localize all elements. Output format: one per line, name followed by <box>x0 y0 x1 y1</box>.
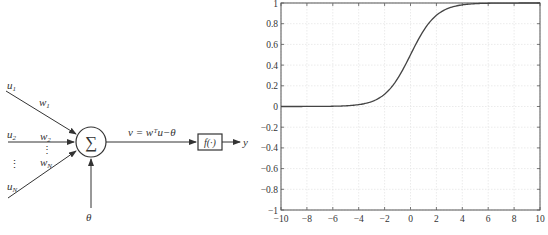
x-tick-label: 0 <box>408 214 413 224</box>
y-tick-label: 0 <box>273 102 278 112</box>
weight-label-n: wN <box>40 156 52 170</box>
y-tick-label: −0.2 <box>261 123 278 133</box>
x-tick-label: −8 <box>302 214 312 224</box>
output-label: y <box>242 136 248 148</box>
weight-label-2: w2 <box>40 130 51 144</box>
x-tick-label: −6 <box>328 214 338 224</box>
x-tick-label: 4 <box>460 214 465 224</box>
figure: u1 w1 u2 w2 ⋮ wN ⋮ uN ∑ θ v = wᵀu−θ f(·)… <box>0 0 548 235</box>
weight-label-1: w1 <box>39 96 50 110</box>
input-label-1: u1 <box>7 79 16 93</box>
equation-label: v = wᵀu−θ <box>128 126 176 138</box>
sum-symbol: ∑ <box>85 133 97 152</box>
neuron-diagram: u1 w1 u2 w2 ⋮ wN ⋮ uN ∑ θ v = wᵀu−θ f(·)… <box>6 79 248 223</box>
x-tick-label: 10 <box>535 214 545 224</box>
x-tick-label: −4 <box>354 214 364 224</box>
y-tick-label: 0.8 <box>266 19 278 29</box>
weight-ellipsis: ⋮ <box>42 144 52 155</box>
bias-label: θ <box>86 211 92 223</box>
input-label-n: uN <box>7 180 18 194</box>
y-tick-label: 0.6 <box>266 40 278 50</box>
y-tick-label: −0.6 <box>261 164 278 174</box>
y-tick-label: −0.8 <box>261 185 278 195</box>
x-tick-label: −2 <box>380 214 390 224</box>
x-tick-label: −10 <box>274 214 289 224</box>
input-label-2: u2 <box>7 128 17 142</box>
x-tick-label: 2 <box>434 214 439 224</box>
activation-label: f(·) <box>204 137 217 149</box>
y-tick-label: 0.4 <box>266 61 278 71</box>
y-tick-label: 0.2 <box>266 81 278 91</box>
y-tick-label: −1 <box>268 206 278 216</box>
input-ellipsis: ⋮ <box>9 158 20 170</box>
y-tick-label: −0.4 <box>261 143 278 153</box>
x-tick-label: 6 <box>486 214 491 224</box>
x-tick-label: 8 <box>512 214 517 224</box>
y-tick-label: 1 <box>273 0 278 9</box>
sigmoid-chart: −10−8−6−4−2024681010.80.60.40.20−0.2−0.4… <box>261 0 545 224</box>
